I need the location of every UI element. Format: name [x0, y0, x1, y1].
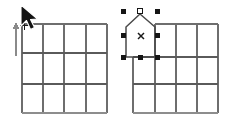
right-grid-panel[interactable]	[121, 9, 219, 114]
x-marker-icon	[138, 33, 144, 39]
handle-top-left[interactable]	[121, 9, 126, 14]
handle-top-center[interactable]	[138, 9, 143, 14]
right-grid-columns	[133, 24, 218, 113]
handle-middle-left[interactable]	[121, 33, 126, 38]
vertical-axis-arrow	[13, 22, 20, 56]
canvas-stage: Two CAD grids: left grid with drawing cu…	[0, 0, 228, 126]
left-grid-panel[interactable]	[13, 5, 107, 113]
drawing-canvas[interactable]	[0, 0, 228, 126]
handle-bottom-right[interactable]	[155, 55, 160, 60]
left-grid-columns	[22, 24, 107, 113]
handle-top-right[interactable]	[155, 9, 160, 14]
handle-bottom-center[interactable]	[138, 55, 143, 60]
handle-middle-right[interactable]	[155, 33, 160, 38]
handle-bottom-left[interactable]	[121, 55, 126, 60]
